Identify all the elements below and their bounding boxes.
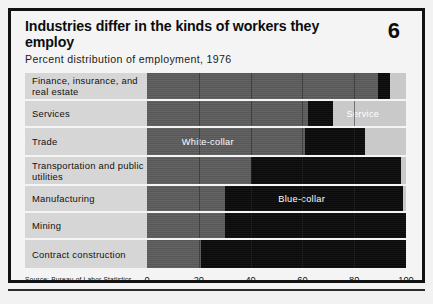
bar-segment-blue-collar: [378, 73, 391, 99]
bar-segment-white-collar: White-collar: [147, 128, 305, 155]
bar-segment-service: [365, 128, 406, 155]
chart-row-label: Contract construction: [25, 240, 147, 268]
chart-row-bar: [147, 213, 406, 238]
chart-row-bar: Blue-collar: [147, 186, 406, 211]
axis-tick: 20: [194, 275, 204, 285]
bar-segment-blue-collar: [225, 213, 406, 238]
bar-segment-blue-collar: [305, 128, 365, 155]
bar-segment-label: White-collar: [182, 137, 234, 147]
chart-row-label: Finance, insurance, and real estate: [25, 73, 147, 99]
chart-row: Finance, insurance, and real estate: [25, 73, 406, 99]
chart-row: Transportation and public utilities: [25, 157, 406, 184]
axis-tick: 100: [398, 275, 413, 285]
axis-tick: 60: [297, 275, 307, 285]
bar-segment-blue-collar: [201, 240, 406, 268]
bar-segment-white-collar: [147, 73, 378, 99]
axis-tick: 0: [144, 275, 149, 285]
chart-row: TradeWhite-collar: [25, 128, 406, 155]
chart-row-label: Services: [25, 101, 147, 126]
bar-segment-label: Blue-collar: [278, 194, 325, 204]
chart-row: Contract construction: [25, 240, 406, 268]
bar-segment-label: Service: [347, 109, 380, 119]
bar-segment-blue-collar: [251, 157, 401, 184]
bar-segment-service: Service: [333, 101, 406, 126]
page-title: Industries differ in the kinds of worker…: [25, 19, 343, 50]
figure-heading: Industries differ in the kinds of worker…: [25, 19, 412, 75]
bar-segment-service: [401, 157, 406, 184]
chart-axis: Source: Bureau of Labor Statistics 02040…: [25, 275, 406, 289]
bar-segment-white-collar: [147, 186, 225, 211]
bar-segment-white-collar: [147, 101, 308, 126]
axis-tick: 40: [245, 275, 255, 285]
chart-row-bar: [147, 157, 406, 184]
source-note: Source: Bureau of Labor Statistics: [25, 276, 132, 283]
chart-row: ManufacturingBlue-collar: [25, 186, 406, 211]
figure-subtitle: Percent distribution of employment, 1976: [25, 53, 232, 65]
chart-row: ServicesService: [25, 101, 406, 126]
bar-segment-service: [390, 73, 406, 99]
bar-segment-white-collar: [147, 213, 225, 238]
figure-page: Industries differ in the kinds of worker…: [0, 0, 433, 304]
chart-row-bar: Service: [147, 101, 406, 126]
bar-segment-blue-collar: [308, 101, 334, 126]
chart-row-bar: [147, 240, 406, 268]
chart-row-label: Transportation and public utilities: [25, 157, 147, 184]
chart-row-label: Mining: [25, 213, 147, 238]
axis-tick: 80: [349, 275, 359, 285]
chart-row-label: Trade: [25, 128, 147, 155]
chart-row-label: Manufacturing: [25, 186, 147, 211]
axis-tick-labels: 020406080100: [147, 275, 406, 289]
chart-row-bar: White-collar: [147, 128, 406, 155]
stacked-bar-chart: Finance, insurance, and real estateServi…: [25, 73, 406, 273]
bar-segment-blue-collar: Blue-collar: [225, 186, 404, 211]
chart-row-bar: [147, 73, 406, 99]
figure-frame: Industries differ in the kinds of worker…: [8, 8, 425, 283]
bar-segment-service: [403, 186, 406, 211]
bar-segment-white-collar: [147, 240, 201, 268]
bar-segment-white-collar: [147, 157, 251, 184]
figure-number: 6: [388, 19, 400, 43]
chart-row: Mining: [25, 213, 406, 238]
bottom-divider: [8, 289, 425, 291]
